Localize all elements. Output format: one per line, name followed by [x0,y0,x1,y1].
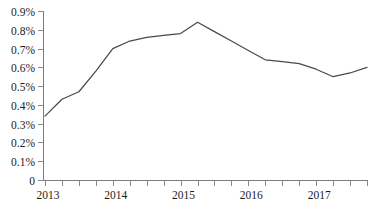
chart-canvas: 00.1%0.2%0.3%0.4%0.5%0.6%0.7%0.8%0.9% 20… [0,0,380,223]
y-axis-tick-label: 0 [29,175,35,187]
x-axis-tick-label: 2014 [104,189,127,201]
x-axis-tick-label: 2013 [37,189,60,201]
x-axis-tick-label: 2016 [240,189,263,201]
y-axis-tick-label: 0.8% [11,25,35,37]
x-axis-tick-labels: 20132014201520162017 [37,189,331,201]
y-axis-tick-label: 0.1% [11,156,35,168]
line-chart: 00.1%0.2%0.3%0.4%0.5%0.6%0.7%0.8%0.9% 20… [0,0,380,223]
x-axis-ticks [46,181,368,187]
y-axis-tick-label: 0.4% [11,100,35,112]
y-axis-tick-label: 0.3% [11,119,35,131]
y-axis-tick-labels: 00.1%0.2%0.3%0.4%0.5%0.6%0.7%0.8%0.9% [11,6,35,187]
x-axis-tick-label: 2015 [172,189,195,201]
y-axis-ticks [38,12,44,181]
x-axis-tick-label: 2017 [308,189,331,201]
y-axis-tick-label: 0.9% [11,6,35,18]
data-series-line [45,22,367,116]
y-axis-tick-label: 0.6% [11,62,35,74]
y-axis-tick-label: 0.7% [11,44,35,56]
y-axis-tick-label: 0.5% [11,81,35,93]
y-axis-tick-label: 0.2% [11,137,35,149]
